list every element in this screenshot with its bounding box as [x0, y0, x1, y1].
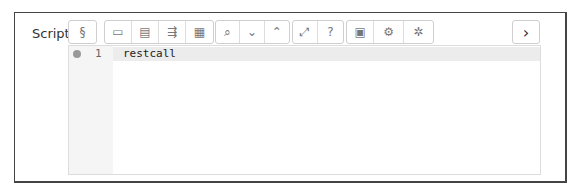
debug-button[interactable]: ✲	[404, 21, 433, 43]
line-number: 1	[95, 47, 102, 60]
search-toolbar-group: ⌕ ⌄ ⌃	[215, 20, 290, 44]
search-icon: ⌕	[224, 25, 231, 39]
view-toolbar-group: ⤢ ?	[292, 20, 344, 44]
unfold-icon: ▦	[194, 25, 205, 39]
chevron-right-icon: ›	[523, 23, 529, 42]
snippet-button[interactable]: §	[68, 20, 97, 44]
help-button[interactable]: ?	[318, 21, 343, 43]
save-icon: ▣	[355, 25, 366, 39]
snippet-icon: §	[80, 25, 86, 39]
expand-button[interactable]: ›	[512, 20, 540, 44]
fold-icon: ⇶	[167, 25, 177, 39]
fold-button[interactable]: ⇶	[159, 21, 186, 43]
find-previous-button[interactable]: ⌃	[265, 21, 289, 43]
editor-gutter	[69, 46, 113, 174]
chevron-up-icon: ⌃	[272, 25, 282, 39]
fullscreen-button[interactable]: ⤢	[293, 21, 318, 43]
comment-icon: ▭	[112, 25, 123, 39]
format-toolbar-group: ▭ ▤ ⇶ ▦	[104, 20, 214, 44]
run-button[interactable]: ⚙	[374, 21, 403, 43]
indent-icon: ▤	[139, 25, 150, 39]
gear-icon: ⚙	[383, 25, 394, 39]
help-icon: ?	[327, 25, 333, 39]
search-button[interactable]: ⌕	[216, 21, 240, 43]
script-label: Script	[32, 26, 70, 41]
fullscreen-icon: ⤢	[300, 25, 310, 39]
comment-button[interactable]: ▭	[105, 21, 132, 43]
indent-button[interactable]: ▤	[132, 21, 159, 43]
active-line-highlight	[113, 47, 540, 61]
action-toolbar-group: ▣ ⚙ ✲	[346, 20, 434, 44]
chevron-down-icon: ⌄	[247, 25, 257, 39]
code-editor[interactable]: 1 restcall	[68, 45, 541, 175]
code-line[interactable]: restcall	[123, 47, 176, 60]
bug-icon: ✲	[413, 25, 423, 39]
info-icon[interactable]	[73, 50, 81, 58]
save-button[interactable]: ▣	[347, 21, 374, 43]
unfold-button[interactable]: ▦	[186, 21, 213, 43]
find-next-button[interactable]: ⌄	[240, 21, 264, 43]
